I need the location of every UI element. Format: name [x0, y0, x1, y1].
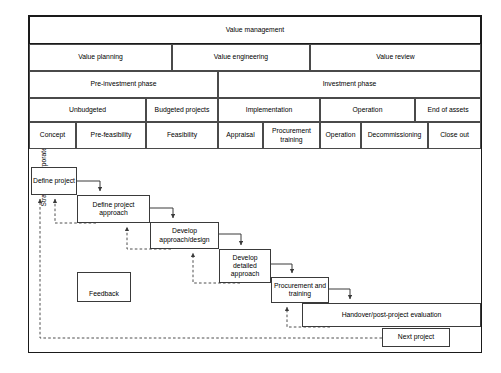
- table-cell: Value review: [310, 44, 481, 71]
- figure-root: Strategy: Corporate, business and projec…: [0, 0, 501, 373]
- table-cell: Unbudgeted: [29, 98, 146, 122]
- flow-box: Define project approach: [77, 195, 150, 223]
- table-cell: Value engineering: [172, 44, 310, 71]
- table-cell: End of assets: [415, 98, 481, 122]
- legend-feedback-label: Feedback: [89, 290, 119, 297]
- flow-box: Define project: [31, 167, 77, 195]
- flow-box: Procurement and training: [271, 277, 329, 303]
- flow-box: Handover/post-project evaluation: [302, 303, 481, 327]
- flow-box: Next project: [382, 328, 450, 347]
- table-cell: Pre-investment phase: [29, 71, 218, 98]
- flow-box: Develop detailed approach: [219, 249, 271, 283]
- table-cell: Investment phase: [218, 71, 481, 98]
- table-cell: Value planning: [29, 44, 172, 71]
- table-cell: Budgeted projects: [146, 98, 218, 122]
- legend-feedback: Feedback: [77, 272, 131, 302]
- table-cell: Close out: [428, 122, 481, 149]
- phase-table: Value managementValue planningValue engi…: [29, 16, 481, 149]
- table-cell: Operation: [320, 122, 361, 149]
- table-cell: Feasibility: [146, 122, 218, 149]
- table-cell: Pre-feasibility: [76, 122, 146, 149]
- table-cell: Value management: [29, 16, 481, 44]
- table-cell: Implementation: [218, 98, 320, 122]
- table-cell: Appraisal: [218, 122, 263, 149]
- table-cell: Decommissioning: [361, 122, 428, 149]
- table-cell: Operation: [320, 98, 415, 122]
- table-cell: Concept: [29, 122, 76, 149]
- flow-box: Develop approach/design: [150, 222, 219, 249]
- table-cell: Procurement training: [263, 122, 320, 149]
